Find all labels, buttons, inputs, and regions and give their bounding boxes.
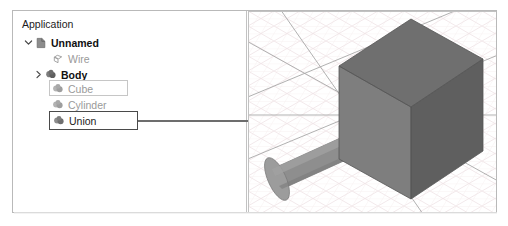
tree-item-label: Wire	[68, 53, 90, 65]
tree-item-label: Union	[69, 115, 96, 127]
tree-root-label: Application	[22, 18, 73, 30]
3d-scene	[248, 11, 496, 212]
tree-item-label: Cylinder	[68, 99, 107, 111]
twisty-placeholder	[39, 53, 51, 65]
tree-item-label: Unnamed	[51, 37, 99, 49]
3d-viewport[interactable]	[248, 11, 496, 212]
chevron-right-icon[interactable]	[32, 69, 44, 81]
tree-item-cube[interactable]: Cube	[51, 81, 93, 96]
model-tree-panel: Application Unnamed Wir	[13, 11, 247, 212]
shape-solid-icon	[51, 98, 64, 111]
tree-item-unnamed[interactable]: Unnamed	[22, 35, 99, 50]
tree-item-label: Cube	[68, 83, 93, 95]
tree-item-cylinder[interactable]: Cylinder	[51, 97, 107, 112]
tree-item-union[interactable]: Union	[52, 113, 96, 128]
document-icon	[34, 36, 47, 49]
tree-item-wire[interactable]: Wire	[39, 51, 90, 66]
shape-solid-icon	[51, 82, 64, 95]
wire-solid-icon	[51, 52, 64, 65]
tree-item-label: Body	[61, 69, 87, 81]
shape-solid-icon	[52, 114, 65, 127]
chevron-down-icon[interactable]	[22, 37, 34, 49]
application-frame: Application Unnamed Wir	[12, 10, 497, 213]
